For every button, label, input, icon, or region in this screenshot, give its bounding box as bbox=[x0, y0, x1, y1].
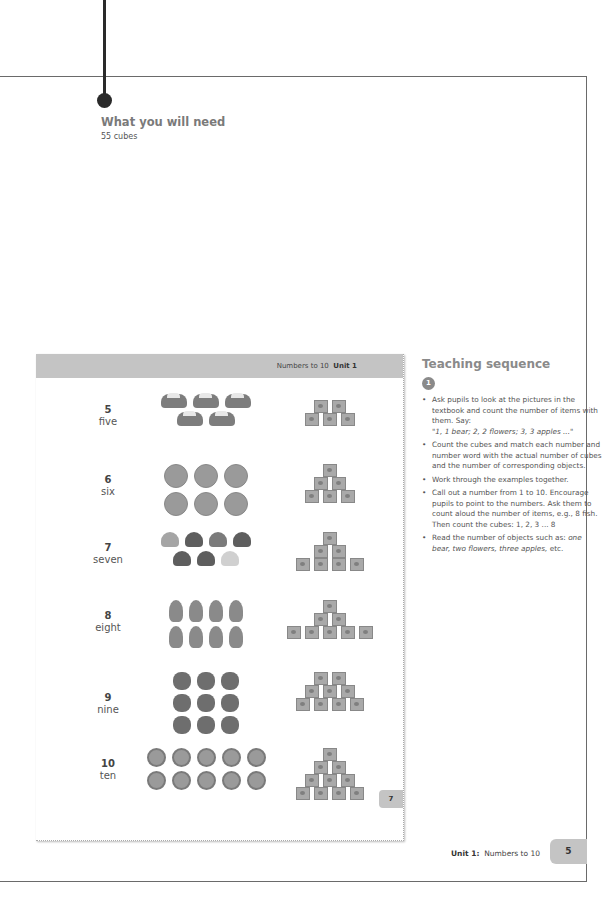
shell-icon bbox=[161, 532, 179, 547]
cube-icon bbox=[323, 413, 337, 426]
cube-icon bbox=[305, 626, 319, 639]
fish-group bbox=[136, 600, 276, 648]
cube-icon bbox=[296, 558, 310, 571]
cube-icon bbox=[332, 761, 346, 774]
cube-icon bbox=[314, 761, 328, 774]
cube-icon bbox=[332, 545, 346, 558]
number-label: 5five bbox=[78, 404, 138, 427]
cube-icon bbox=[323, 685, 337, 698]
raspberry-icon bbox=[221, 716, 239, 734]
textbook-header-topic: Numbers to 10 bbox=[277, 362, 329, 370]
textbook-header-unit: Unit 1 bbox=[333, 362, 357, 370]
teaching-sequence-list: Ask pupils to look at the pictures in th… bbox=[422, 395, 602, 557]
cube-icon bbox=[341, 685, 355, 698]
cube-icon bbox=[332, 672, 346, 685]
teaching-sequence-title: Teaching sequence bbox=[422, 357, 550, 371]
number-word: eight bbox=[78, 622, 138, 633]
footer-unit-title: Unit 1: Numbers to 10 bbox=[451, 849, 540, 858]
number-label: 6six bbox=[78, 474, 138, 497]
apple-icon bbox=[224, 464, 248, 488]
number-digit: 7 bbox=[78, 542, 138, 553]
number-row: 9nine bbox=[36, 672, 403, 742]
cube-icon bbox=[341, 413, 355, 426]
cube-icon bbox=[323, 626, 337, 639]
step-badge: 1 bbox=[422, 377, 435, 390]
number-word: six bbox=[78, 486, 138, 497]
raspberry-icon bbox=[173, 716, 191, 734]
cube-pyramid bbox=[276, 532, 386, 571]
shell-icon bbox=[185, 532, 203, 547]
raspberry-group bbox=[136, 672, 276, 734]
coin-icon bbox=[172, 748, 191, 767]
number-word: five bbox=[78, 416, 138, 427]
cube-icon bbox=[287, 626, 301, 639]
cube-icon bbox=[341, 490, 355, 503]
apple-icon bbox=[224, 492, 248, 516]
cube-icon bbox=[341, 626, 355, 639]
fish-icon bbox=[169, 600, 183, 622]
cube-icon bbox=[323, 774, 337, 787]
cube-pyramid bbox=[276, 672, 386, 711]
list-item: Read the number of objects such as: one … bbox=[432, 533, 602, 554]
cube-icon bbox=[305, 685, 319, 698]
coin-icon bbox=[247, 748, 266, 767]
cube-icon bbox=[314, 787, 328, 800]
apple-icon bbox=[164, 464, 188, 488]
textbook-page-header: Numbers to 10 Unit 1 bbox=[36, 354, 403, 378]
fish-icon bbox=[189, 600, 203, 622]
shell-group bbox=[136, 532, 276, 566]
coin-icon bbox=[197, 771, 216, 790]
cube-icon bbox=[323, 600, 337, 613]
shell-icon bbox=[233, 532, 251, 547]
cube-pyramid bbox=[276, 600, 386, 639]
section-marker-line bbox=[103, 0, 106, 100]
number-label: 7seven bbox=[78, 542, 138, 565]
cube-icon bbox=[350, 698, 364, 711]
cube-icon bbox=[332, 613, 346, 626]
cube-icon bbox=[323, 532, 337, 545]
cube-icon bbox=[323, 464, 337, 477]
coin-icon bbox=[147, 771, 166, 790]
cube-icon bbox=[314, 477, 328, 490]
car-icon bbox=[177, 412, 203, 426]
car-icon bbox=[193, 394, 219, 408]
cube-icon bbox=[305, 413, 319, 426]
number-row: 8eight bbox=[36, 600, 403, 670]
coin-icon bbox=[197, 748, 216, 767]
shell-icon bbox=[209, 532, 227, 547]
cube-icon bbox=[314, 672, 328, 685]
number-digit: 8 bbox=[78, 610, 138, 621]
fish-icon bbox=[189, 626, 203, 648]
fish-icon bbox=[209, 600, 223, 622]
what-you-need-item: 55 cubes bbox=[101, 132, 137, 141]
number-row: 5five bbox=[36, 394, 403, 464]
car-icon bbox=[225, 394, 251, 408]
coin-icon bbox=[222, 771, 241, 790]
coin-icon bbox=[147, 748, 166, 767]
number-label: 9nine bbox=[78, 692, 138, 715]
car-group bbox=[136, 394, 276, 426]
number-digit: 5 bbox=[78, 404, 138, 415]
number-digit: 10 bbox=[78, 758, 138, 769]
raspberry-icon bbox=[221, 694, 239, 712]
number-row: 7seven bbox=[36, 532, 403, 602]
cube-pyramid bbox=[276, 748, 386, 800]
what-you-need-title: What you will need bbox=[101, 115, 225, 129]
apple-group bbox=[136, 464, 276, 516]
fish-icon bbox=[169, 626, 183, 648]
list-item: Call out a number from 1 to 10. Encourag… bbox=[432, 488, 602, 530]
coin-icon bbox=[222, 748, 241, 767]
cube-icon bbox=[296, 698, 310, 711]
cube-icon bbox=[341, 774, 355, 787]
cube-icon bbox=[305, 490, 319, 503]
apple-icon bbox=[164, 492, 188, 516]
raspberry-icon bbox=[197, 694, 215, 712]
raspberry-icon bbox=[173, 672, 191, 690]
section-marker-dot-icon bbox=[97, 93, 112, 108]
number-label: 10ten bbox=[78, 758, 138, 781]
coin-icon bbox=[172, 771, 191, 790]
cube-icon bbox=[314, 613, 328, 626]
fish-icon bbox=[229, 626, 243, 648]
cube-pyramid bbox=[276, 464, 386, 503]
car-icon bbox=[161, 394, 187, 408]
